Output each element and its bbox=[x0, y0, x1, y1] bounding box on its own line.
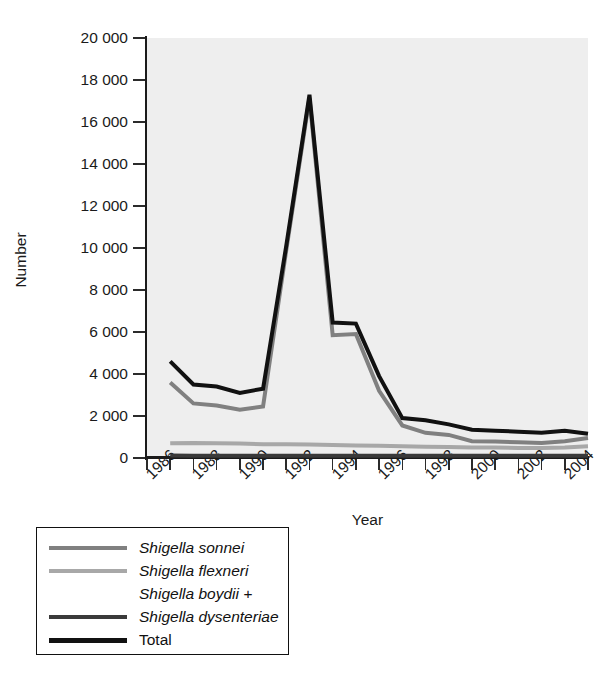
y-tick-label: 0 bbox=[0, 450, 128, 466]
legend-item: Shigella sonnei bbox=[37, 537, 244, 559]
y-tick-mark bbox=[133, 79, 145, 81]
y-tick-mark bbox=[133, 457, 145, 459]
legend-label: Shigella sonnei bbox=[139, 540, 244, 556]
y-tick-label: 20 000 bbox=[0, 30, 128, 46]
legend-swatch-spacer bbox=[49, 592, 127, 596]
y-tick-mark bbox=[133, 415, 145, 417]
y-tick-mark bbox=[133, 373, 145, 375]
chart-legend: Shigella sonneiShigella flexneriShigella… bbox=[36, 527, 289, 655]
y-tick-mark bbox=[133, 163, 145, 165]
legend-color-swatch bbox=[49, 569, 127, 573]
y-tick-label: 2 000 bbox=[0, 408, 128, 424]
plot-area bbox=[147, 38, 588, 458]
y-tick-mark bbox=[133, 331, 145, 333]
legend-item: Shigella flexneri bbox=[37, 560, 248, 582]
y-tick-mark bbox=[133, 37, 145, 39]
legend-item: Total bbox=[37, 629, 172, 651]
legend-item-continued: Shigella dysenteriae bbox=[37, 606, 279, 628]
y-tick-mark bbox=[133, 247, 145, 249]
legend-color-swatch bbox=[49, 615, 127, 619]
legend-label: Shigella boydii + bbox=[139, 586, 252, 602]
legend-label: Shigella dysenteriae bbox=[139, 609, 279, 625]
y-tick-mark bbox=[133, 205, 145, 207]
legend-color-swatch bbox=[49, 638, 127, 643]
shigella-isolates-line-chart: 02 0004 0006 0008 00010 00012 00014 0001… bbox=[0, 0, 606, 686]
y-axis-title: Number bbox=[12, 110, 32, 410]
legend-item: Shigella boydii + bbox=[37, 583, 252, 605]
legend-color-swatch bbox=[49, 546, 127, 550]
legend-label: Total bbox=[139, 632, 172, 648]
legend-label: Shigella flexneri bbox=[139, 563, 248, 579]
y-tick-mark bbox=[133, 289, 145, 291]
y-tick-mark bbox=[133, 121, 145, 123]
y-tick-label: 18 000 bbox=[0, 72, 128, 88]
y-axis-line bbox=[145, 36, 147, 460]
